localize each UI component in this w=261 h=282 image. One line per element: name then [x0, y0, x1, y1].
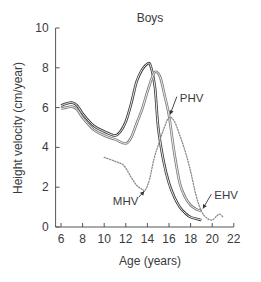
x-axis-label: Age (years) — [119, 254, 181, 268]
y-tick-label: 10 — [35, 21, 49, 35]
y-tick-label: 0 — [42, 220, 49, 234]
x-tick-label: 22 — [227, 232, 241, 246]
chart-title: Boys — [137, 11, 164, 25]
y-tick-label: 2 — [42, 180, 49, 194]
annotations: MHV PHV EHV — [113, 92, 238, 209]
annotation-mhv-label: MHV — [113, 195, 139, 207]
x-tick-label: 20 — [206, 232, 220, 246]
annotation-phv-label: PHV — [180, 92, 204, 104]
y-axis-label: Height velocity (cm/year) — [11, 62, 25, 194]
x-tick-label: 18 — [184, 232, 198, 246]
x-tick-label: 16 — [162, 232, 176, 246]
y-tick-label: 8 — [42, 61, 49, 75]
x-tick-label: 8 — [79, 232, 86, 246]
x-tick-label: 6 — [58, 232, 65, 246]
chart-canvas: Boys Age (years) Height velocity (cm/yea… — [0, 0, 261, 282]
series-group — [61, 63, 223, 220]
x-tick-label: 10 — [98, 232, 112, 246]
x-tick-label: 12 — [119, 232, 133, 246]
x-tick-label: 14 — [141, 232, 155, 246]
y-tick-label: 6 — [42, 101, 49, 115]
axes: 68101214161820220246810 — [35, 21, 241, 246]
y-tick-label: 4 — [42, 140, 49, 154]
height-velocity-chart: Boys Age (years) Height velocity (cm/yea… — [0, 0, 261, 282]
annotation-ehv-label: EHV — [214, 189, 238, 201]
